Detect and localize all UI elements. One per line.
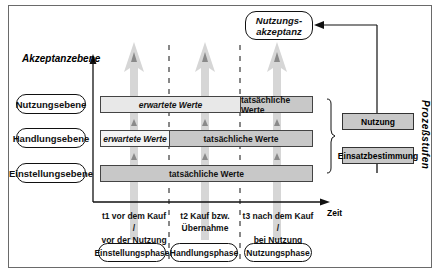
outcome-line-1: Nutzungs- bbox=[256, 15, 302, 26]
phase-handlungsphase: Handlungsphase bbox=[170, 243, 238, 262]
phase-nutzungsphase: Nutzungsphase bbox=[244, 243, 312, 262]
phase-einstellungsphase: Einstellungsphase bbox=[98, 243, 166, 262]
band-segment-actual: tatsächliche Werte bbox=[241, 97, 312, 112]
band-einstellungsebene: tatsächliche Werte bbox=[100, 165, 313, 182]
band-segment-expected: erwartete Werte bbox=[101, 131, 170, 146]
band-nutzungsebene: erwartete Werte tatsächliche Werte bbox=[100, 96, 313, 113]
time-point-line: Übernahme bbox=[171, 222, 239, 234]
band-segment-actual: tatsächliche Werte bbox=[170, 131, 312, 146]
level-label-einstellungsebene: Einstellungsebene bbox=[16, 163, 86, 183]
side-label-prozessstufen: Prozeßstufen bbox=[420, 100, 431, 169]
level-label-handlungsebene: Handlungsebene bbox=[16, 128, 86, 148]
time-point-t1: t1 vor dem Kauf / vor der Nutzung bbox=[100, 210, 168, 246]
band-handlungsebene: erwartete Werte tatsächliche Werte bbox=[100, 130, 313, 147]
outcome-nutzungsakzeptanz: Nutzungs- akzeptanz bbox=[245, 11, 313, 40]
level-label-nutzungsebene: Nutzungsebene bbox=[16, 94, 86, 114]
y-axis-label: Akzeptanzebene bbox=[22, 53, 100, 64]
band-segment-expected: erwartete Werte bbox=[101, 97, 241, 112]
time-point-t3: t3 nach dem Kauf / bei Nutzung bbox=[242, 210, 314, 246]
time-point-t2: t2 Kauf bzw. Übernahme bbox=[171, 210, 239, 234]
process-step-nutzung: Nutzung bbox=[342, 113, 414, 130]
time-point-line: t2 Kauf bzw. bbox=[171, 210, 239, 222]
band-segment-actual: tatsächliche Werte bbox=[101, 166, 312, 181]
time-point-line: t3 nach dem Kauf / bbox=[242, 210, 314, 234]
time-point-line: t1 vor dem Kauf / bbox=[100, 210, 168, 234]
process-step-einsatzbestimmung: Einsatzbestimmung bbox=[342, 147, 414, 164]
outcome-line-2: akzeptanz bbox=[256, 26, 301, 37]
x-axis-label: Zeit bbox=[327, 208, 342, 218]
